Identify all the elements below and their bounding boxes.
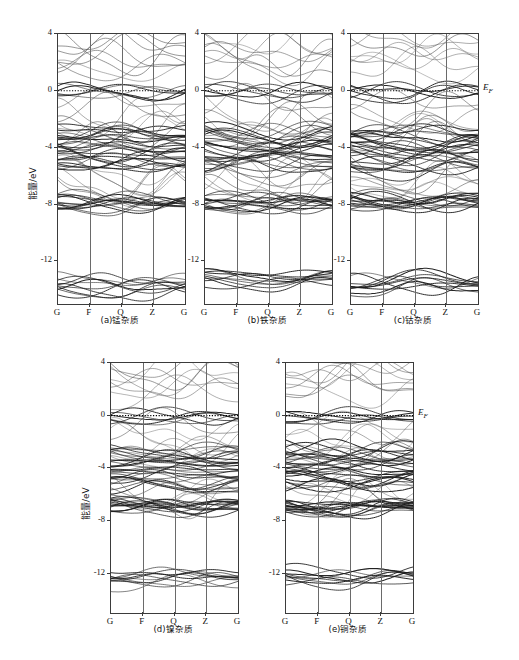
y-tick-label: -12 bbox=[176, 255, 199, 264]
y-tick-mark bbox=[201, 33, 205, 34]
k-point-gridline bbox=[175, 363, 176, 613]
y-tick-label: -4 bbox=[29, 142, 52, 151]
y-tick-mark bbox=[54, 33, 58, 34]
y-tick-mark bbox=[107, 467, 111, 468]
y-tick-mark bbox=[282, 362, 286, 363]
y-tick-mark bbox=[347, 33, 351, 34]
k-point-gridline bbox=[350, 363, 351, 613]
y-tick-mark bbox=[347, 260, 351, 261]
y-tick-mark bbox=[347, 147, 351, 148]
y-tick-mark bbox=[54, 260, 58, 261]
y-tick-label: 4 bbox=[322, 28, 345, 37]
y-tick-label: -12 bbox=[29, 255, 52, 264]
y-tick-label: 0 bbox=[176, 85, 199, 94]
plot-area-b bbox=[204, 33, 333, 305]
k-point-gridline bbox=[269, 34, 270, 304]
k-point-gridline bbox=[206, 363, 207, 613]
y-tick-label: 0 bbox=[322, 85, 345, 94]
y-tick-label: -4 bbox=[176, 142, 199, 151]
y-tick-label: -4 bbox=[322, 142, 345, 151]
y-tick-mark bbox=[282, 573, 286, 574]
panel-caption-d: (d)镍杂质 bbox=[113, 625, 233, 634]
y-tick-label: -4 bbox=[82, 462, 105, 471]
k-point-gridline bbox=[237, 34, 238, 304]
panel-caption-a: (a)锰杂质 bbox=[60, 316, 180, 325]
y-tick-label: -4 bbox=[257, 462, 280, 471]
y-axis-title-row1: 能量/eV bbox=[26, 167, 39, 200]
y-tick-mark bbox=[282, 415, 286, 416]
y-tick-mark bbox=[347, 204, 351, 205]
y-tick-mark bbox=[201, 260, 205, 261]
y-tick-label: -12 bbox=[82, 568, 105, 577]
plot-area-a bbox=[57, 33, 186, 305]
plot-area-e bbox=[285, 362, 414, 614]
k-point-gridline bbox=[381, 363, 382, 613]
y-tick-label: 0 bbox=[29, 85, 52, 94]
y-tick-label: -8 bbox=[257, 515, 280, 524]
y-tick-label: 4 bbox=[29, 28, 52, 37]
k-point-gridline bbox=[300, 34, 301, 304]
band-structure-figure: 40-4-8-12GFQZG(a)锰杂质40-4-8-12GFQZG(b)铁杂质… bbox=[0, 0, 519, 660]
k-point-gridline bbox=[415, 34, 416, 304]
k-point-gridline bbox=[383, 34, 384, 304]
y-tick-label: 4 bbox=[176, 28, 199, 37]
y-tick-label: 0 bbox=[82, 410, 105, 419]
panel-caption-b: (b)铁杂质 bbox=[207, 316, 327, 325]
y-tick-mark bbox=[54, 90, 58, 91]
y-axis-title-row2: 能量/eV bbox=[79, 487, 92, 520]
fermi-level-label-c: EF bbox=[483, 83, 493, 95]
y-tick-label: 4 bbox=[82, 357, 105, 366]
y-tick-mark bbox=[107, 573, 111, 574]
y-tick-label: -8 bbox=[176, 199, 199, 208]
fermi-subscript: F bbox=[489, 87, 493, 95]
y-tick-label: -12 bbox=[322, 255, 345, 264]
y-tick-mark bbox=[107, 362, 111, 363]
y-tick-mark bbox=[347, 90, 351, 91]
k-point-gridline bbox=[90, 34, 91, 304]
fermi-level-label-e: EF bbox=[418, 408, 428, 420]
panel-caption-e: (e)铜杂质 bbox=[288, 625, 408, 634]
y-tick-label: -8 bbox=[322, 199, 345, 208]
y-tick-label: 4 bbox=[257, 357, 280, 366]
k-point-gridline bbox=[143, 363, 144, 613]
plot-area-c bbox=[350, 33, 479, 305]
y-tick-mark bbox=[201, 147, 205, 148]
k-point-gridline bbox=[153, 34, 154, 304]
y-tick-mark bbox=[201, 204, 205, 205]
y-tick-mark bbox=[54, 147, 58, 148]
y-tick-label: -12 bbox=[257, 568, 280, 577]
fermi-subscript: F bbox=[424, 411, 428, 419]
k-point-gridline bbox=[318, 363, 319, 613]
y-tick-mark bbox=[201, 90, 205, 91]
y-tick-mark bbox=[107, 415, 111, 416]
plot-area-d bbox=[110, 362, 239, 614]
y-tick-mark bbox=[282, 467, 286, 468]
k-point-gridline bbox=[122, 34, 123, 304]
y-tick-mark bbox=[107, 520, 111, 521]
panel-caption-c: (c)钴杂质 bbox=[353, 316, 473, 325]
y-tick-label: 0 bbox=[257, 410, 280, 419]
y-tick-mark bbox=[54, 204, 58, 205]
k-point-gridline bbox=[446, 34, 447, 304]
y-tick-mark bbox=[282, 520, 286, 521]
